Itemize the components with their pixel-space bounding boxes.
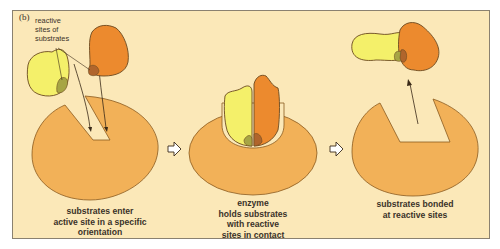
step3-caption: substrates bonded at reactive sites (355, 199, 475, 220)
caption-line: enzyme (193, 198, 313, 209)
step2-caption: enzyme holds substrates with reactive si… (193, 198, 313, 240)
caption-line: sites in contact (193, 230, 313, 241)
caption-line: at reactive sites (355, 210, 475, 221)
reactive-sites-annotation: reactive sites of substrates (35, 17, 69, 43)
step3-release-arrow (407, 79, 418, 124)
caption-line: orientation (35, 227, 165, 238)
panel-label: (b) (19, 12, 30, 22)
annotation-line: substrates (35, 35, 69, 44)
step2-enzyme (189, 103, 317, 195)
step1-substrate-yellow (27, 49, 69, 96)
step1-caption: substrates enter active site in a specif… (35, 206, 165, 238)
step3-enzyme (352, 99, 478, 196)
hollow-arrow-right-icon (330, 142, 343, 156)
caption-line: holds substrates (193, 209, 313, 220)
step1-substrate-orange (88, 25, 128, 76)
caption-line: active site in a specific (35, 217, 165, 228)
step1-enzyme (32, 96, 158, 200)
caption-line: substrates bonded (355, 199, 475, 210)
hollow-arrow-right-icon (168, 142, 181, 156)
step3-bonded-product (352, 23, 439, 71)
caption-line: with reactive (193, 219, 313, 230)
caption-line: substrates enter (35, 206, 165, 217)
